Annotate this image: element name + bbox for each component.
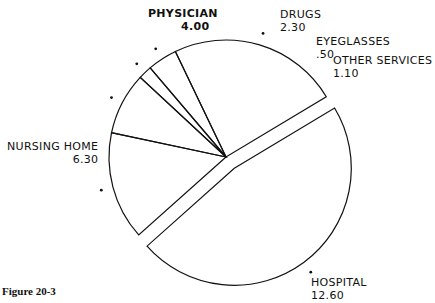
pie-slice-other-services [150,52,226,157]
label-dot [154,47,157,50]
label-other-services: OTHER SERVICES 1.10 [333,54,432,80]
label-drugs-value: 2.30 [280,21,321,34]
label-other-services-name: OTHER SERVICES [333,54,432,67]
label-nursing-home-name: NURSING HOME [7,140,98,153]
label-dot [309,271,312,274]
label-nursing-home-value: 6.30 [7,153,98,166]
pie-slice-hospital [147,108,351,285]
label-physician-name: PHYSICIAN [148,7,218,20]
label-hospital-name: HOSPITAL [311,276,367,289]
pie-slice-eyeglasses [140,68,226,157]
label-hospital: HOSPITAL 12.60 [311,276,367,302]
label-physician-value: 4.00 [148,20,218,33]
label-drugs-name: DRUGS [280,8,321,21]
figure-caption: Figure 20-3 [2,285,56,297]
label-other-services-value: 1.10 [333,67,432,80]
pie-slice-nursing-home [175,40,326,157]
label-physician: PHYSICIAN 4.00 [148,7,218,33]
label-nursing-home: NURSING HOME 6.30 [7,140,98,166]
label-dot [100,189,103,192]
pie-slice-physician [109,133,226,235]
label-hospital-value: 12.60 [311,289,367,302]
label-dot [110,96,113,99]
label-drugs: DRUGS 2.30 [280,8,321,34]
label-dot [262,32,265,35]
label-dot [135,62,138,65]
label-eyeglasses-name: EYEGLASSES [316,35,390,48]
